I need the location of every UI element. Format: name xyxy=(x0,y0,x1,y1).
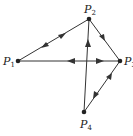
edge-p3-p4 xyxy=(84,61,120,112)
edge-p1-p2 xyxy=(18,19,89,61)
arrow-icon xyxy=(99,34,105,41)
graph-diagram: P1 P2 P3 P4 xyxy=(0,0,133,136)
node-p4 xyxy=(82,110,87,115)
arrow-icon xyxy=(58,33,66,39)
edge-p4-p2 xyxy=(84,19,89,112)
label-p1: P1 xyxy=(2,55,15,69)
node-p2 xyxy=(87,17,92,22)
label-p3: P3 xyxy=(123,55,133,69)
arrow-icon xyxy=(85,39,91,47)
arrow-icon xyxy=(96,58,104,64)
node-p1 xyxy=(16,59,21,64)
label-p2: P2 xyxy=(83,3,96,17)
node-p3 xyxy=(118,59,123,64)
label-p4: P4 xyxy=(79,118,92,132)
arrow-icon xyxy=(67,58,75,64)
